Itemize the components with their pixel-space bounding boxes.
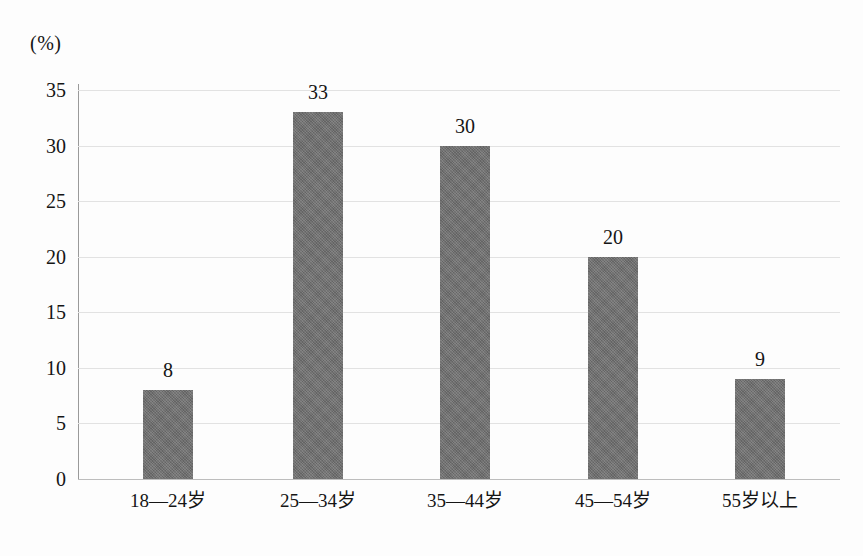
x-axis-label: 55岁以上 xyxy=(690,490,830,513)
y-tick-label: 30 xyxy=(6,136,66,156)
x-axis-label: 18—24岁 xyxy=(98,490,238,513)
gridline xyxy=(78,90,840,91)
plot-area: 8 33 30 20 9 xyxy=(78,90,840,479)
x-axis-label: 45—54岁 xyxy=(543,490,683,513)
y-axis-unit-label: (%) xyxy=(30,33,61,53)
bar xyxy=(440,146,490,479)
bar xyxy=(143,390,193,479)
y-tick-label: 0 xyxy=(6,469,66,489)
y-tick-label: 20 xyxy=(6,247,66,267)
y-tick-label: 25 xyxy=(6,191,66,211)
x-axis-baseline xyxy=(78,479,840,480)
bar-value-label: 33 xyxy=(293,82,343,102)
x-axis-label: 25—34岁 xyxy=(248,490,388,513)
x-axis-category-labels: 18—24岁 25—34岁 35—44岁 45—54岁 55岁以上 xyxy=(78,490,840,530)
y-tick-label: 15 xyxy=(6,302,66,322)
y-tick-label: 10 xyxy=(6,358,66,378)
bar xyxy=(588,257,638,479)
bar-value-label: 30 xyxy=(440,116,490,136)
bar xyxy=(735,379,785,479)
y-tick-label: 35 xyxy=(6,80,66,100)
bar xyxy=(293,112,343,479)
y-tick-label: 5 xyxy=(6,413,66,433)
bar-chart: (%) 35 30 25 20 15 10 5 0 8 33 30 20 9 1… xyxy=(0,0,863,556)
bar-value-label: 9 xyxy=(735,349,785,369)
bar-value-label: 8 xyxy=(143,360,193,380)
x-axis-label: 35—44岁 xyxy=(395,490,535,513)
bar-value-label: 20 xyxy=(588,227,638,247)
y-axis-tick-labels: 35 30 25 20 15 10 5 0 xyxy=(0,90,66,479)
